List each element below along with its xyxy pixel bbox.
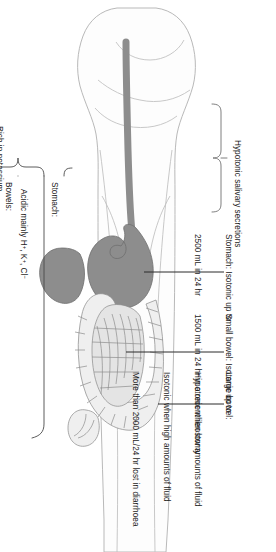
callout-saliva: Hypotonic salivary secretions [221, 126, 252, 247]
composition-potassium-note: Rich in potassium [0, 112, 14, 191]
figure-page: Hypotonic salivary secretions Stomach: I… [0, 0, 276, 552]
callout-stomach-volume-line1: Stomach: Isotonic up to [223, 234, 233, 321]
composition-brace-divider-icon [64, 168, 72, 176]
callout-saliva-text: Hypotonic salivary secretions [233, 140, 242, 247]
composition-bowels-group: Bowels: Alkaline High Na+ 130–140 mmol/L… [0, 182, 34, 286]
saliva-brace-icon [212, 104, 221, 212]
callout-large-bowel-line3: Isotonic when high amounts of fluid [161, 372, 171, 527]
callout-stomach-volume: Stomach: Isotonic up to 2500 mL in 24 hr [171, 234, 254, 321]
callout-large-bowel-line2: Hypotonic when low amounts of fluid [192, 372, 202, 527]
composition-bowels-heading: Bowels: [3, 182, 13, 286]
caecum-icon [68, 410, 99, 447]
composition-stomach-heading: Stomach: [49, 182, 59, 279]
callout-large-bowel-line1: Large bowel: [223, 372, 233, 527]
callout-stomach-volume-line2: 2500 mL in 24 hr [192, 234, 202, 321]
figure-canvas: Hypotonic salivary secretions Stomach: I… [0, 0, 276, 552]
callout-large-bowel-line4: More than 2000 mL/24 hr lost in diarrhoe… [130, 372, 140, 527]
callout-large-bowel: Large bowel: Hypotonic when low amounts … [109, 372, 254, 527]
